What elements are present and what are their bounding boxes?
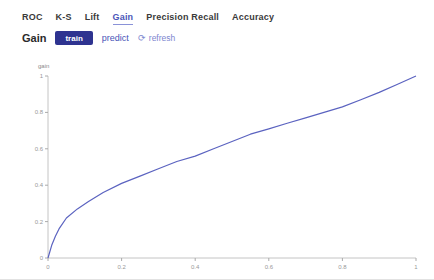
y-tick-label: 0.6 <box>35 146 44 152</box>
x-tick-label: 0.4 <box>191 264 200 270</box>
x-tick-label: 0 <box>46 264 50 270</box>
tab-gain[interactable]: Gain <box>113 12 134 25</box>
x-tick-label: 0.2 <box>117 264 126 270</box>
tab-accuracy[interactable]: Accuracy <box>232 12 274 25</box>
y-tick-label: 0.8 <box>35 109 44 115</box>
tab-precision-recall[interactable]: Precision Recall <box>146 12 219 25</box>
y-tick-label: 1 <box>40 73 44 79</box>
gain-curve <box>48 76 416 258</box>
refresh-label: refresh <box>149 33 175 43</box>
metrics-panel: ROC K-S Lift Gain Precision Recall Accur… <box>0 0 434 280</box>
tab-roc[interactable]: ROC <box>22 12 43 25</box>
refresh-control[interactable]: ⟳ refresh <box>138 33 175 43</box>
y-tick-label: 0.4 <box>35 182 44 188</box>
x-tick-label: 1 <box>414 264 418 270</box>
x-tick-label: 0.6 <box>265 264 274 270</box>
page-title: Gain <box>22 32 46 44</box>
train-toggle-button[interactable]: train <box>55 31 92 45</box>
tab-lift[interactable]: Lift <box>85 12 100 25</box>
x-tick-label: 0.8 <box>338 264 347 270</box>
y-tick-label: 0.2 <box>35 219 44 225</box>
refresh-icon: ⟳ <box>138 34 146 43</box>
predict-toggle-link[interactable]: predict <box>102 33 129 43</box>
gain-section-header: Gain train predict ⟳ refresh <box>22 31 175 45</box>
y-axis-title: gain <box>38 63 49 69</box>
tab-ks[interactable]: K-S <box>56 12 72 25</box>
metric-tab-bar: ROC K-S Lift Gain Precision Recall Accur… <box>22 12 274 25</box>
y-tick-label: 0 <box>40 255 44 261</box>
gain-chart: 00.20.40.60.8100.20.40.60.81gain <box>0 58 434 280</box>
